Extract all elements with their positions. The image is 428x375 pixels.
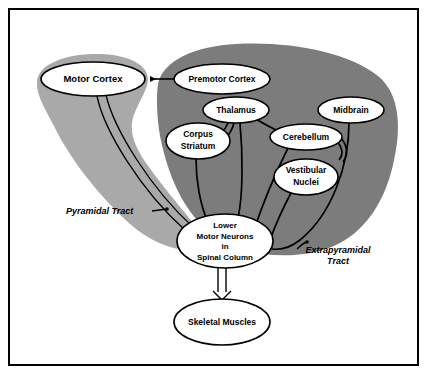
node-label-premotor-cortex: Premotor Cortex — [188, 74, 255, 84]
node-lower-motor-neurons[interactable]: Lower Motor Neurons in Spinal Column — [177, 214, 273, 268]
node-corpus-striatum[interactable]: Corpus Striatum — [166, 123, 230, 159]
node-premotor-cortex[interactable]: Premotor Cortex — [174, 64, 270, 94]
label-extrapyramidal-tract-line1: Extrapyramidal — [305, 245, 371, 255]
label-pyramidal-tract: Pyramidal Tract — [66, 206, 134, 216]
node-label-lower-motor-neurons-line4: Spinal Column — [197, 253, 253, 262]
node-label-lower-motor-neurons-line3: in — [221, 242, 228, 251]
node-motor-cortex[interactable]: Motor Cortex — [41, 62, 145, 96]
node-label-cerebellum: Cerebellum — [283, 132, 330, 142]
node-label-corpus-striatum-line1: Corpus — [183, 129, 213, 139]
node-label-midbrain: Midbrain — [333, 105, 368, 115]
diagram-page: Motor Cortex Premotor Cortex Thalamus Mi… — [0, 0, 428, 375]
node-cerebellum[interactable]: Cerebellum — [270, 124, 342, 150]
node-label-vestibular-nuclei-line1: Vestibular — [286, 165, 327, 175]
node-midbrain[interactable]: Midbrain — [318, 97, 384, 123]
diagram-canvas: Motor Cortex Premotor Cortex Thalamus Mi… — [0, 0, 428, 375]
node-label-lower-motor-neurons-line1: Lower — [213, 221, 237, 230]
node-skeletal-muscles[interactable]: Skeletal Muscles — [174, 299, 270, 345]
node-vestibular-nuclei[interactable]: Vestibular Nuclei — [274, 159, 338, 195]
label-extrapyramidal-tract-line2: Tract — [327, 256, 350, 266]
connector-lmn-to-skeletal-muscles — [213, 268, 231, 300]
node-thalamus[interactable]: Thalamus — [203, 97, 269, 123]
node-label-motor-cortex: Motor Cortex — [63, 73, 123, 84]
label-extrapyramidal-tract: Extrapyramidal Tract — [305, 245, 371, 266]
node-label-skeletal-muscles: Skeletal Muscles — [188, 317, 256, 327]
node-label-corpus-striatum-line2: Striatum — [181, 141, 216, 151]
label-pyramidal-tract-text: Pyramidal Tract — [66, 206, 134, 216]
node-label-thalamus: Thalamus — [216, 105, 256, 115]
node-label-lower-motor-neurons-line2: Motor Neurons — [197, 232, 254, 241]
node-label-vestibular-nuclei-line2: Nuclei — [293, 177, 319, 187]
